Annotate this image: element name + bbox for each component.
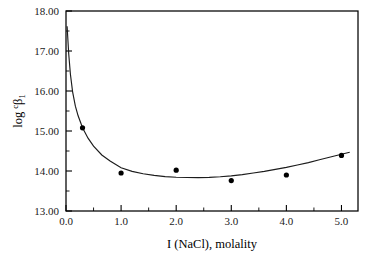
y-tick-label: 15.00 [34,125,59,137]
x-tick-label: 0.0 [59,215,73,227]
y-tick-label: 14.00 [34,165,59,177]
data-point-marker [80,125,85,130]
x-tick-label: 2.0 [169,215,183,227]
x-tick-label: 5.0 [335,215,349,227]
y-tick-label: 17.00 [34,45,59,57]
y-axis-tick-labels: 13.0014.0015.0016.0017.0018.00 [34,5,59,217]
y-tick-label: 13.00 [34,205,59,217]
y-axis-title: log cβ1 [10,94,27,128]
x-tick-label: 1.0 [114,215,128,227]
y-axis-title-group: log cβ1 [10,94,27,128]
chart-figure: 0.01.02.03.04.05.0 13.0014.0015.0016.001… [0,0,368,260]
data-point-marker [339,153,344,158]
y-tick-label: 16.00 [34,85,59,97]
x-tick-label: 4.0 [280,215,294,227]
y-tick-label: 18.00 [34,5,59,17]
x-axis-tick-labels: 0.01.02.03.04.05.0 [59,215,349,227]
plot-area-background [66,11,358,211]
data-point-marker [284,172,289,177]
data-point-marker [174,168,179,173]
chart-svg: 0.01.02.03.04.05.0 13.0014.0015.0016.001… [0,0,368,260]
x-tick-label: 3.0 [224,215,238,227]
data-point-marker [118,170,123,175]
data-point-marker [229,178,234,183]
x-axis-title: I (NaCl), molality [167,237,258,251]
